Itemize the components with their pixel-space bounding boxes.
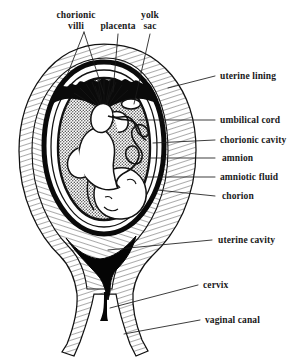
label-uterine-lining: uterine lining <box>220 71 276 82</box>
label-vaginal-canal: vaginal canal <box>205 315 260 326</box>
cervical-canal <box>100 292 108 321</box>
label-chorionic-villi-line1: chorionic <box>46 10 106 21</box>
label-umbilical-cord: umbilical cord <box>220 115 280 126</box>
label-yolk-sac-line1: yolk <box>133 10 167 21</box>
fetus-arm-upper <box>91 103 113 132</box>
label-yolk-sac: yolk sac <box>133 10 167 31</box>
label-chorion: chorion <box>222 191 254 202</box>
label-amniotic-fluid: amniotic fluid <box>220 172 278 183</box>
label-chorionic-cavity: chorionic cavity <box>220 135 286 146</box>
label-yolk-sac-line2: sac <box>133 21 167 32</box>
label-amnion: amnion <box>222 153 253 164</box>
anatomical-diagram: chorionic villi placenta yolk sac uterin… <box>0 0 308 358</box>
label-cervix: cervix <box>203 280 228 291</box>
label-uterine-cavity: uterine cavity <box>218 235 275 246</box>
yolk-sac-shape <box>122 99 141 109</box>
